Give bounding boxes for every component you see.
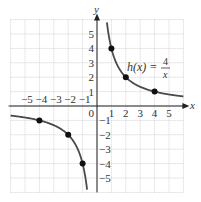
x-axis-arrow-icon	[182, 103, 189, 109]
tick-y: 4	[89, 42, 95, 54]
tick-x: 5	[166, 107, 172, 119]
tick-x: −2	[64, 93, 76, 105]
data-point	[36, 117, 42, 123]
tick-x: −3	[50, 93, 62, 105]
equation-numerator: 4	[163, 56, 168, 67]
equation-name: h(x)	[127, 60, 146, 74]
data-point	[152, 89, 158, 95]
curve-branch-negative	[11, 116, 87, 190]
data-point	[80, 161, 86, 167]
tick-x: 4	[152, 107, 158, 119]
data-point	[108, 45, 114, 51]
x-axis-label: x	[189, 99, 195, 111]
tick-x-0: 0	[89, 107, 95, 119]
tick-y: −5	[99, 172, 111, 184]
equation-label: h(x) = 4 x	[127, 56, 170, 80]
tick-y: 3	[89, 57, 95, 69]
tick-x: 2	[123, 107, 129, 119]
tick-y: −1	[99, 114, 111, 126]
function-graph: −5−4−3−2−101234512345−1−2−3−4−5 x y h(x)…	[0, 0, 201, 202]
tick-y: 1	[89, 86, 95, 98]
y-axis-label: y	[93, 3, 99, 15]
tick-x: −4	[36, 93, 48, 105]
tick-y: 5	[89, 28, 95, 40]
tick-y: −2	[99, 129, 111, 141]
equation-denominator: x	[162, 69, 168, 80]
equation-equals: =	[150, 60, 157, 74]
tick-x: 3	[137, 107, 143, 119]
data-point	[123, 74, 129, 80]
tick-x: −5	[21, 93, 33, 105]
data-point	[65, 132, 71, 138]
tick-y: −3	[99, 143, 111, 155]
tick-y: −4	[99, 158, 111, 170]
tick-y: 2	[89, 71, 95, 83]
